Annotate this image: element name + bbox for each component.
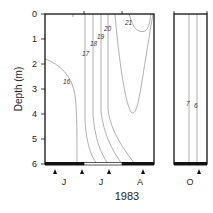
y-tick-1: 1 bbox=[32, 34, 37, 44]
contour-17 bbox=[85, 14, 97, 164]
marker-icon bbox=[107, 169, 111, 174]
month-label-august: A bbox=[137, 177, 143, 187]
contour-label-16: 16 bbox=[63, 78, 71, 85]
month-label-july: J bbox=[99, 177, 104, 187]
y-tick-3: 3 bbox=[32, 84, 37, 94]
contour-label-7: 7 bbox=[186, 100, 190, 107]
contour-21 bbox=[131, 14, 151, 32]
marker-icon bbox=[197, 169, 201, 174]
month-label-october: O bbox=[186, 177, 193, 187]
contour-label-19: 19 bbox=[97, 33, 105, 40]
main-panel: 16 17 18 19 20 21 bbox=[45, 11, 154, 166]
contour-16 bbox=[45, 59, 77, 164]
contour-label-6: 6 bbox=[194, 102, 198, 109]
y-tick-4: 4 bbox=[32, 109, 37, 119]
marker-icon bbox=[141, 169, 145, 174]
marker-icon bbox=[80, 169, 84, 174]
year-label: 1983 bbox=[115, 190, 139, 202]
autumn-panel-frame bbox=[174, 14, 207, 164]
contour-label-20: 20 bbox=[103, 25, 112, 32]
autumn-panel: 7 6 bbox=[174, 11, 207, 166]
y-tick-0: 0 bbox=[32, 9, 37, 19]
contour-label-17: 17 bbox=[82, 50, 90, 57]
y-tick-6: 6 bbox=[32, 159, 37, 169]
y-axis-tick-labels: 0 1 2 3 4 5 6 bbox=[32, 9, 37, 169]
month-markers bbox=[53, 169, 201, 174]
bottom-bar-segment-2 bbox=[84, 163, 122, 166]
marker-icon bbox=[53, 169, 57, 174]
month-label-june: J bbox=[62, 177, 67, 187]
y-axis-label: Depth (m) bbox=[13, 67, 24, 111]
y-tick-5: 5 bbox=[32, 134, 37, 144]
contour-20-outer bbox=[108, 14, 135, 164]
bottom-bar-segment-3 bbox=[122, 162, 154, 166]
contour-label-18: 18 bbox=[90, 40, 98, 47]
contour-label-21: 21 bbox=[124, 19, 133, 26]
autumn-bottom-bar bbox=[174, 162, 207, 166]
y-tick-2: 2 bbox=[32, 59, 37, 69]
bottom-bar-segment-1 bbox=[45, 162, 84, 166]
depth-temperature-contour-chart: Depth (m) 0 1 2 3 4 5 6 bbox=[0, 0, 213, 213]
